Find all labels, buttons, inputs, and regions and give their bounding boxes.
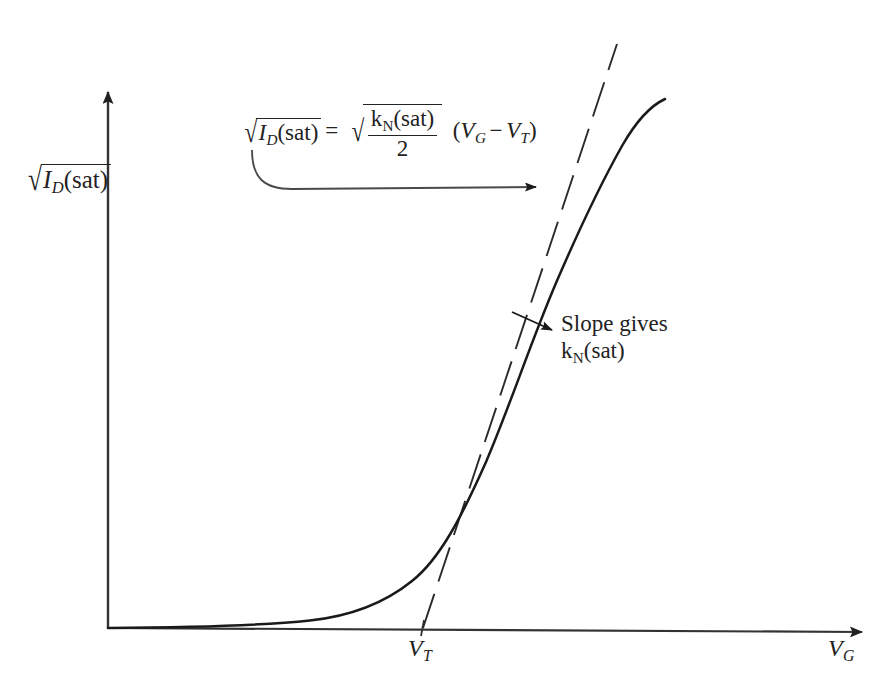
factor-close-paren: ) [529,118,537,143]
equals-sign: = [321,118,342,143]
factor-minus-sign: − [486,118,506,143]
factor-first-symbol: V [461,118,475,143]
x-axis-symbol: V [828,635,843,661]
y-axis-suffix: (sat) [64,166,108,193]
equation-lhs-subscript: D [266,131,277,148]
x-axis [108,628,862,632]
plot-svg [0,0,896,686]
slope-annotation-line2: kN(sat) [561,337,668,367]
fraction-denominator: 2 [368,136,437,161]
x-tick-subscript: T [423,647,432,664]
fraction-numerator-symbol: k [371,106,383,131]
radical-sign: √ [28,163,42,196]
fraction-numerator-subscript: N [382,117,393,134]
y-axis-subscript: D [51,178,63,197]
factor-second-symbol: V [506,118,520,143]
equation-rhs-radical: √kN(sat)2 [348,104,442,161]
equation-rhs-radicand: kN(sat)2 [363,104,442,161]
slope-suffix: (sat) [584,338,625,363]
y-axis-radicand: ID(sat) [41,164,112,197]
x-axis-label: VG [828,636,854,665]
slope-annotation-line1: Slope gives [561,311,668,336]
factor-open-paren: ( [453,118,461,143]
x-axis-subscript: G [843,647,855,664]
slope-symbol: k [561,338,573,363]
factor-first-subscript: G [475,129,486,146]
radical-sign: √ [245,117,258,147]
equation-factor: (VG−VT) [448,118,537,143]
radical-sign: √ [352,116,365,146]
y-axis-radical: √ID(sat) [24,163,111,197]
factor-second-subscript: T [520,129,529,146]
fraction-numerator-suffix: (sat) [393,106,434,131]
slope-subscript: N [573,349,584,366]
equation-lhs-suffix: (sat) [277,120,318,145]
slope-pointer-arrow [512,312,552,330]
fraction-numerator: kN(sat) [368,107,437,136]
x-tick-label-vt: VT [408,636,432,665]
figure-canvas: √ID(sat) √ID(sat)= √kN(sat)2 (VG−VT) Slo… [0,0,896,686]
k-over-two-fraction: kN(sat)2 [366,107,440,161]
equation-lhs-radical: √ID(sat) [241,117,321,148]
main-equation: √ID(sat)= √kN(sat)2 (VG−VT) [241,104,537,161]
y-axis-label: √ID(sat) [24,163,111,197]
equation-lhs-radicand: ID(sat) [256,118,321,148]
slope-annotation: Slope gives kN(sat) [561,310,668,367]
x-tick-symbol: V [408,635,423,661]
